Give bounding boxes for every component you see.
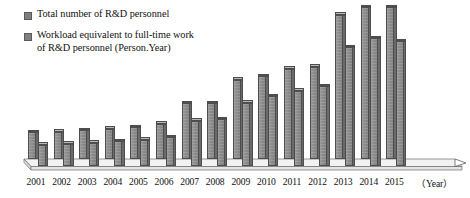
bar-fte-personnel xyxy=(166,137,177,166)
bar-side-face xyxy=(96,143,100,166)
bar-side-face xyxy=(45,145,49,166)
bar-top-face xyxy=(79,128,90,131)
bar-top-face xyxy=(310,64,321,67)
x-axis-tick-label: 2005 xyxy=(124,176,152,187)
bar-top-face xyxy=(370,36,381,39)
bar-side-face xyxy=(377,38,381,166)
bar-fte-personnel xyxy=(114,141,125,166)
bar-fte-personnel xyxy=(319,86,330,166)
bar-side-face xyxy=(173,137,177,166)
bar-top-face xyxy=(217,117,228,120)
bar-fte-personnel xyxy=(217,119,228,166)
bar-top-face xyxy=(28,130,39,133)
bar-top-face xyxy=(242,100,253,103)
bar-group xyxy=(258,0,286,166)
bar-fte-personnel xyxy=(140,140,151,166)
bar-side-face xyxy=(198,121,202,166)
bar-fte-personnel xyxy=(191,121,202,166)
bar-group xyxy=(361,0,389,166)
bar-group xyxy=(79,0,107,166)
bar-fte-personnel xyxy=(268,96,279,166)
bar-top-face xyxy=(361,5,372,8)
bar-group xyxy=(28,0,56,166)
x-axis-tick-label: 2009 xyxy=(227,176,255,187)
bar-side-face xyxy=(249,103,253,166)
bar-top-face xyxy=(105,126,116,129)
bar-top-face xyxy=(345,45,356,48)
bar-group xyxy=(54,0,82,166)
bar-fte-personnel xyxy=(63,144,74,166)
bar-top-face xyxy=(335,12,346,15)
x-axis-tick-label: 2010 xyxy=(252,176,280,187)
bar-top-face xyxy=(38,142,49,145)
bar-top-face xyxy=(207,101,218,104)
x-axis-tick-label: 2012 xyxy=(304,176,332,187)
bar-side-face xyxy=(70,144,74,166)
x-axis-tick-label: 2004 xyxy=(99,176,127,187)
x-axis-unit-label: （Year） xyxy=(416,176,453,190)
bar-side-face xyxy=(147,140,151,166)
x-axis-tick-label: 2002 xyxy=(48,176,76,187)
bar-top-face xyxy=(140,137,151,140)
bar-top-face xyxy=(386,5,397,8)
x-axis-tick-label: 2001 xyxy=(22,176,50,187)
bar-side-face xyxy=(301,91,305,166)
chart-root: Total number of R&D personnel Workload e… xyxy=(0,0,470,198)
bar-side-face xyxy=(275,96,279,166)
bar-fte-personnel xyxy=(89,143,100,166)
bar-top-face xyxy=(294,88,305,91)
bar-top-face xyxy=(54,129,65,132)
x-axis-tick-label: 2008 xyxy=(201,176,229,187)
x-axis-tick-label: 2003 xyxy=(73,176,101,187)
bar-top-face xyxy=(396,39,407,42)
bar-group xyxy=(130,0,158,166)
x-axis-tick-label: 2011 xyxy=(278,176,306,187)
bar-fte-personnel xyxy=(370,38,381,166)
x-axis-tick-label: 2013 xyxy=(329,176,357,187)
bar-side-face xyxy=(224,119,228,166)
bar-fte-personnel xyxy=(396,41,407,166)
x-axis-tick-label: 2007 xyxy=(176,176,204,187)
bar-top-face xyxy=(284,66,295,69)
bar-top-face xyxy=(182,101,193,104)
x-axis-tick-label: 2015 xyxy=(380,176,408,187)
bar-group xyxy=(156,0,184,166)
bar-top-face xyxy=(233,77,244,80)
bar-group xyxy=(335,0,363,166)
bar-group xyxy=(182,0,210,166)
x-axis-tick-label: 2006 xyxy=(150,176,178,187)
bar-fte-personnel xyxy=(294,91,305,166)
x-axis-tick-label: 2014 xyxy=(355,176,383,187)
bar-top-face xyxy=(63,141,74,144)
bar-side-face xyxy=(326,86,330,166)
bar-top-face xyxy=(89,140,100,143)
bar-fte-personnel xyxy=(242,103,253,166)
bar-fte-personnel xyxy=(38,145,49,166)
bar-top-face xyxy=(258,74,269,77)
bar-side-face xyxy=(403,41,407,166)
plot-area xyxy=(0,0,470,198)
bar-group xyxy=(310,0,338,166)
x-axis-labels: 2001200220032004200520062007200820092010… xyxy=(0,176,470,194)
bar-top-face xyxy=(268,94,279,97)
bar-group xyxy=(386,0,414,166)
bar-top-face xyxy=(166,135,177,138)
bar-top-face xyxy=(191,118,202,121)
bar-group xyxy=(105,0,133,166)
bar-side-face xyxy=(352,47,356,166)
bars-layer xyxy=(0,0,470,198)
bar-side-face xyxy=(121,141,125,166)
bar-group xyxy=(284,0,312,166)
bar-top-face xyxy=(319,84,330,87)
bar-top-face xyxy=(156,121,167,124)
bar-fte-personnel xyxy=(345,47,356,166)
bar-group xyxy=(233,0,261,166)
bar-top-face xyxy=(130,125,141,128)
bar-group xyxy=(207,0,235,166)
bar-top-face xyxy=(114,139,125,142)
